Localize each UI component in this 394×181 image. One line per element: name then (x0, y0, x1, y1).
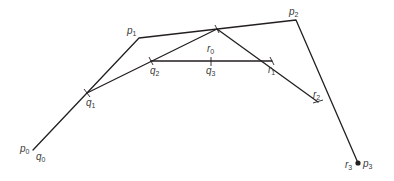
label-r2: r2 (313, 89, 320, 101)
label-r1: r1 (268, 64, 275, 76)
label-p0: p0 (19, 143, 30, 155)
bezier-subdivision-diagram: p1 p2 p0 p3 q0 q1 q2 q3 r0 r1 r2 r3 (0, 0, 394, 181)
label-q3: q3 (206, 65, 216, 77)
label-p3: p3 (362, 158, 373, 170)
endpoint-dot-p3 (355, 160, 360, 165)
control-polygon (33, 20, 358, 163)
tick-marks (84, 25, 323, 103)
first-level-segment (87, 29, 318, 102)
label-p1: p1 (126, 25, 137, 37)
label-q0: q0 (36, 151, 46, 163)
label-q1: q1 (86, 97, 96, 109)
label-p2: p2 (288, 6, 299, 18)
label-q2: q2 (150, 65, 160, 77)
label-r0: r0 (207, 43, 214, 55)
label-r3: r3 (345, 159, 352, 171)
